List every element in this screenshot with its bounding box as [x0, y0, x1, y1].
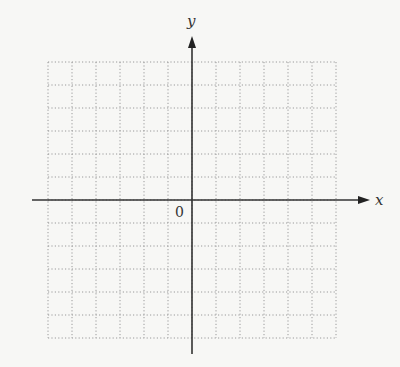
y-axis-label: y [186, 12, 196, 30]
origin-label: 0 [175, 204, 184, 220]
x-axis-label: x [375, 191, 384, 209]
coordinate-plane: x y 0 [0, 0, 400, 367]
y-axis [188, 36, 196, 354]
x-axis [32, 196, 370, 204]
x-axis-arrow-icon [358, 196, 370, 204]
y-axis-arrow-icon [188, 36, 196, 48]
